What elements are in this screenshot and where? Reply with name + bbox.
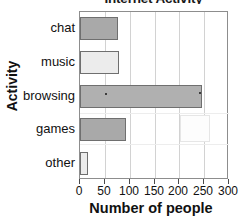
bar-music [80,51,119,74]
y-axis-label-music: music [41,55,75,68]
y-axis-label-chat: chat [50,21,75,34]
scan-artifact-line [80,113,229,114]
bar-browsing [80,85,202,108]
x-tick-label: 50 [97,184,110,198]
x-tick-label: 250 [193,184,213,198]
y-axis-label-other: other [45,156,75,169]
scan-artifact-speck [105,93,107,95]
y-axis-label-games: games [36,122,75,135]
bar-chat [80,17,118,40]
x-tick-label: 0 [76,184,83,198]
chart-root: Internet Activity Activity chatmusicbrow… [0,0,242,221]
plot-area [79,11,228,179]
x-axis-title: Number of people [60,200,242,216]
x-tick-label: 150 [144,184,164,198]
chart-title: Internet Activity [79,0,228,4]
y-axis-label-browsing: browsing [23,89,75,102]
scan-artifact-line [80,144,229,145]
x-tick-label: 100 [119,184,139,198]
y-axis-category-labels: chatmusicbrowsinggamesother [0,11,75,179]
x-tick-label: 300 [218,184,238,198]
bar-games [80,118,126,141]
scan-artifact-speck [199,92,201,94]
bar-series [80,12,227,178]
x-axis-tick-labels: 050100150200250300 [79,184,228,199]
scan-artifact-box [180,115,210,142]
x-tick-label: 200 [168,184,188,198]
bar-other [80,152,88,175]
